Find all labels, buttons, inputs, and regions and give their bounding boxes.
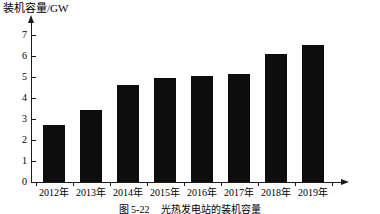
bar-2013年 bbox=[80, 110, 102, 182]
x-label-2019年: 2019年 bbox=[298, 186, 328, 200]
y-axis-title: 装机容量/GW bbox=[3, 2, 68, 15]
x-label-2016年: 2016年 bbox=[187, 186, 217, 200]
bar-2015年 bbox=[154, 78, 176, 182]
bar-2017年 bbox=[228, 74, 250, 182]
y-tick-mark bbox=[32, 77, 36, 78]
y-tick-label: 3 bbox=[22, 112, 27, 125]
bar-2018年 bbox=[265, 54, 287, 182]
x-axis-line bbox=[31, 182, 343, 183]
y-tick-label: 2 bbox=[22, 133, 27, 146]
y-tick-label: 6 bbox=[22, 49, 27, 62]
y-tick-label: 5 bbox=[22, 70, 27, 83]
y-tick-7: 7 bbox=[31, 35, 36, 36]
y-tick-4: 4 bbox=[31, 98, 36, 99]
y-tick-label: 4 bbox=[22, 91, 27, 104]
y-tick-label: 0 bbox=[22, 175, 27, 188]
y-tick-label: 7 bbox=[22, 28, 27, 41]
plot-area: 01234567 bbox=[31, 22, 349, 182]
bar-2019年 bbox=[302, 45, 324, 182]
y-tick-label: 1 bbox=[22, 154, 27, 167]
y-tick-mark bbox=[32, 35, 36, 36]
y-tick-2: 2 bbox=[31, 140, 36, 141]
x-label-2015年: 2015年 bbox=[150, 186, 180, 200]
y-tick-6: 6 bbox=[31, 56, 36, 57]
x-label-2012年: 2012年 bbox=[39, 186, 69, 200]
y-tick-mark bbox=[32, 161, 36, 162]
figure-caption-text: 光热发电站的装机容量 bbox=[161, 204, 261, 214]
y-axis-arrow-icon bbox=[28, 15, 34, 23]
x-label-2013年: 2013年 bbox=[76, 186, 106, 200]
y-tick-mark bbox=[32, 140, 36, 141]
y-tick-1: 1 bbox=[31, 161, 36, 162]
y-tick-3: 3 bbox=[31, 119, 36, 120]
y-tick-5: 5 bbox=[31, 77, 36, 78]
bar-2014年 bbox=[117, 85, 139, 182]
y-tick-mark bbox=[32, 98, 36, 99]
bar-2012年 bbox=[43, 125, 65, 182]
y-tick-mark bbox=[32, 56, 36, 57]
figure-caption: 图 5-22光热发电站的装机容量 bbox=[0, 203, 380, 214]
figure-bar-chart: 装机容量/GW 01234567 2012年2013年2014年2015年201… bbox=[0, 0, 380, 214]
x-label-2018年: 2018年 bbox=[261, 186, 291, 200]
x-axis-labels: 2012年2013年2014年2015年2016年2017年2018年2019年 bbox=[31, 186, 349, 202]
x-axis-arrow-icon bbox=[341, 179, 349, 185]
y-tick-mark bbox=[32, 119, 36, 120]
figure-caption-number: 图 5-22 bbox=[119, 204, 150, 214]
x-label-2014年: 2014年 bbox=[113, 186, 143, 200]
bar-2016年 bbox=[191, 76, 213, 182]
x-label-2017年: 2017年 bbox=[224, 186, 254, 200]
y-axis-line bbox=[31, 22, 32, 182]
